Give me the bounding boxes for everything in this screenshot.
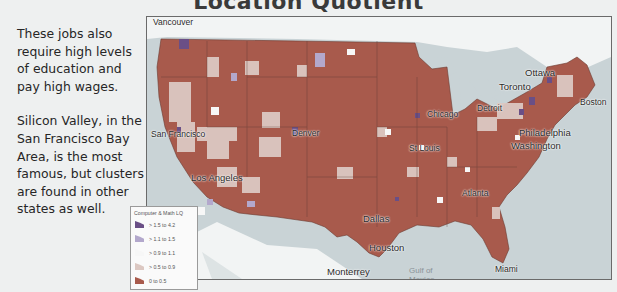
legend-item-average: > 0.9 to 1.1: [135, 248, 175, 257]
lq-choropleth-map: Vancouver San Francisco Los Angeles Denv…: [146, 16, 612, 280]
legend-swatch-icon: [135, 277, 144, 284]
map-legend: Computer & Math LQ > 1.5 to 4.2 > 1.1 to…: [130, 206, 198, 290]
paragraph-silicon-valley: Silicon Valley, in the San Francisco Bay…: [17, 112, 147, 218]
water-label-gulf-of-mexico: Gulf of Mexico: [409, 266, 449, 280]
city-label-denver: Denver: [292, 128, 319, 138]
legend-title: Computer & Math LQ: [134, 210, 183, 216]
city-label-miami: Miami: [495, 264, 518, 274]
city-label-chicago: Chicago: [427, 109, 458, 119]
body-text: These jobs also require high levels of e…: [17, 25, 147, 235]
city-label-st-louis: St Louis: [409, 143, 440, 153]
legend-swatch-icon: [135, 263, 144, 270]
city-label-boston: Boston: [580, 97, 606, 107]
legend-swatch-icon: [135, 221, 144, 228]
legend-item-above-average: > 1.1 to 1.5: [135, 234, 175, 243]
city-label-vancouver: Vancouver: [153, 17, 193, 27]
city-label-washington: Washington: [511, 140, 561, 151]
legend-item-below-average: > 0.5 to 0.9: [135, 262, 175, 271]
city-label-ottawa: Ottawa: [525, 67, 555, 78]
city-label-detroit: Detroit: [477, 103, 502, 113]
city-label-los-angeles: Los Angeles: [191, 172, 243, 183]
city-label-philadelphia: Philadelphia: [519, 127, 571, 138]
legend-item-low: 0 to 0.5: [135, 276, 166, 285]
city-label-dallas: Dallas: [363, 213, 389, 224]
legend-swatch-icon: [135, 249, 144, 256]
legend-item-high: > 1.5 to 4.2: [135, 220, 175, 229]
legend-swatch-icon: [135, 235, 144, 242]
city-label-toronto: Toronto: [499, 81, 531, 92]
city-label-monterrey: Monterrey: [327, 266, 370, 277]
city-label-atlanta: Atlanta: [462, 188, 488, 198]
slide-title: Location Quotient: [0, 0, 617, 14]
city-label-houston: Houston: [369, 242, 404, 253]
city-label-san-francisco: San Francisco: [151, 129, 205, 139]
paragraph-education: These jobs also require high levels of e…: [17, 25, 147, 95]
